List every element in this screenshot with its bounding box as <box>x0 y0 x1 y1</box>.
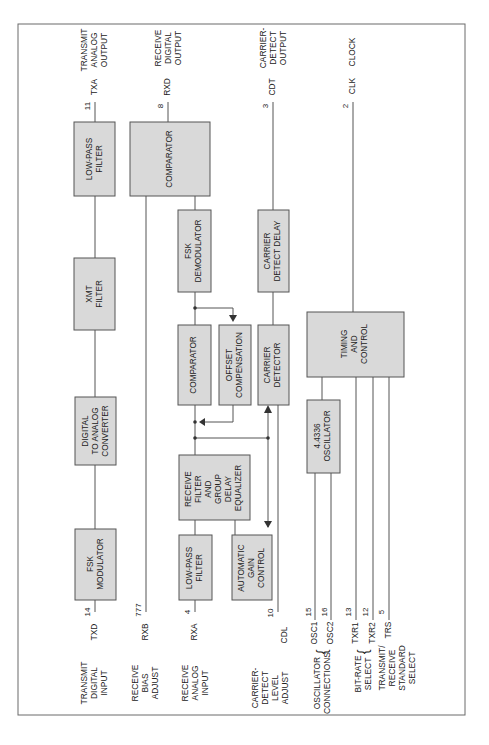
svg-text:TXR1: TXR1 <box>350 622 360 644</box>
svg-text:COMPARATOR: COMPARATOR <box>165 130 174 187</box>
svg-text:3: 3 <box>261 103 270 108</box>
svg-text:TXD: TXD <box>89 624 99 641</box>
block-fsk-modulator: FSKMODULATOR <box>75 529 116 600</box>
block-carrier-detect-delay: CARRIERDETECT DELAY <box>258 210 289 292</box>
svg-text:CARRIER-DETECTOUTPUT: CARRIER-DETECTOUTPUT <box>258 28 288 69</box>
input-cdl: 10 CDL CARRIER-DETECTLEVELADJUST <box>250 608 290 708</box>
svg-text:CLK: CLK <box>347 77 357 94</box>
svg-text:11: 11 <box>83 101 92 110</box>
svg-text:5: 5 <box>377 609 386 614</box>
output-cdt: 3 CDT CARRIER-DETECTOUTPUT <box>258 28 288 109</box>
svg-text:RECEIVEANALOGINPUT: RECEIVEANALOGINPUT <box>180 664 210 701</box>
output-rxd: 8 RXD RECEIVEDIGITALOUTPUT <box>153 29 183 108</box>
svg-text:RXA: RXA <box>189 623 199 641</box>
block-agc: AUTOMATICGAINCONTROL <box>232 535 272 600</box>
svg-text:16: 16 <box>320 607 329 616</box>
svg-text:CDT: CDT <box>267 78 277 95</box>
svg-text:CDL: CDL <box>279 626 289 643</box>
svg-text:RXB: RXB <box>140 623 150 641</box>
input-osc: 15 16 OSC1 OSC2 { OSCILLATORCONNECTIONS <box>304 607 335 714</box>
svg-text:TRANSMIT/RECEIVESTANDARDSELECT: TRANSMIT/RECEIVESTANDARDSELECT <box>377 645 417 691</box>
block-diagram: LOW-PASSFILTER XMTFILTER DIGITALTO ANALO… <box>0 0 489 745</box>
input-rxb: 777 RXB RECEIVEBIASADJUST <box>130 603 160 702</box>
svg-text:RECEIVEBIASADJUST: RECEIVEBIASADJUST <box>130 664 160 701</box>
block-timing-control: TIMINGANDCONTROL <box>307 312 404 377</box>
block-oscillator: 4.4336OSCILLATOR <box>307 400 340 473</box>
input-txr: 13 12 TXR1 TXR2 { BIT-RATESELECT <box>344 607 377 693</box>
arrow-left-icon <box>199 418 205 426</box>
svg-text:OSC2: OSC2 <box>325 621 335 644</box>
svg-text:TRANSMITANALOGOUTPUT: TRANSMITANALOGOUTPUT <box>79 29 109 72</box>
block-rx-lowpass: LOW-PASSFILTER <box>179 535 212 600</box>
svg-text:OSC1: OSC1 <box>309 621 319 644</box>
svg-text:TXA: TXA <box>89 78 99 95</box>
arrow-down-icon <box>229 315 237 322</box>
svg-text:14: 14 <box>83 607 92 616</box>
block-carrier-detector: CARRIERDETECTOR <box>258 325 289 405</box>
svg-text:CARRIER-DETECTLEVELADJUST: CARRIER-DETECTLEVELADJUST <box>250 668 290 709</box>
output-clk: 2 CLK CLOCK <box>341 37 357 108</box>
brace-icon: { <box>355 649 371 654</box>
block-xmt-filter: XMTFILTER <box>74 258 115 330</box>
svg-text:777: 777 <box>134 603 143 617</box>
svg-text:4: 4 <box>183 609 192 614</box>
svg-text:CARRIERDETECTOR: CARRIERDETECTOR <box>263 342 282 387</box>
block-comparator-output: COMPARATOR <box>130 122 210 196</box>
input-txd: 14 TXD TRANSMITDIGITALINPUT <box>79 607 109 704</box>
svg-text:OSCILLATORCONNECTIONS: OSCILLATORCONNECTIONS <box>312 652 332 714</box>
svg-text:COMPARATOR: COMPARATOR <box>189 336 198 393</box>
output-txa: 11 TXA TRANSMITANALOGOUTPUT <box>79 29 109 111</box>
block-tx-lowpass: LOW-PASSFILTER <box>74 122 115 196</box>
block-fsk-demodulator: FSKDEMODULATOR <box>178 210 211 292</box>
svg-text:8: 8 <box>156 103 165 108</box>
block-offset-compensation: OFFSETCOMPENSATION <box>219 325 251 405</box>
svg-text:RECEIVEDIGITALOUTPUT: RECEIVEDIGITALOUTPUT <box>153 29 183 66</box>
svg-text:BIT-RATESELECT: BIT-RATESELECT <box>353 655 373 692</box>
arrow-down-icon <box>264 521 272 528</box>
svg-text:TRS: TRS <box>383 621 393 638</box>
svg-text:10: 10 <box>266 608 275 617</box>
svg-text:13: 13 <box>344 607 353 616</box>
block-comparator: COMPARATOR <box>178 325 211 405</box>
svg-text:12: 12 <box>361 607 370 616</box>
svg-text:2: 2 <box>341 103 350 108</box>
svg-text:RXD: RXD <box>162 78 172 96</box>
svg-text:TRANSMITDIGITALINPUT: TRANSMITDIGITALINPUT <box>79 662 109 705</box>
input-rxa: 4 RXA RECEIVEANALOGINPUT <box>180 609 210 701</box>
block-rx-filter-equalizer: RECEIVE FILTER AND GROUP DELAY EQUALIZER <box>179 455 250 520</box>
input-trs: 5 TRS TRANSMIT/RECEIVESTANDARDSELECT <box>377 609 417 691</box>
block-dac: DIGITALTO ANALOGCONVERTER <box>75 397 116 465</box>
arrow-up-icon <box>264 405 272 413</box>
svg-text:15: 15 <box>304 607 313 616</box>
svg-text:CLOCK: CLOCK <box>347 37 357 66</box>
svg-text:TXR2: TXR2 <box>367 622 377 644</box>
